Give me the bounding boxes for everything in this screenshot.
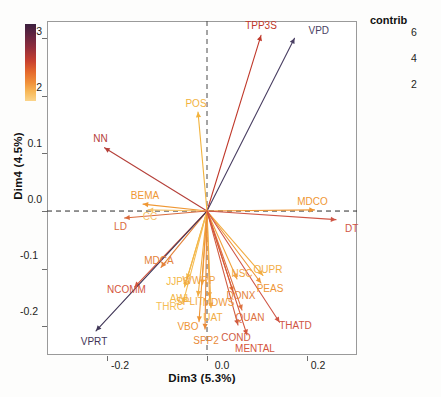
arrowhead-pos (196, 112, 201, 117)
arrow-label-cond: COND (221, 333, 250, 343)
arrow-mdco (207, 210, 315, 211)
arrow-nn (105, 148, 208, 211)
arrow-label-donx: DONX (227, 291, 256, 301)
arrow-label-nn: NN (93, 134, 107, 144)
tick-mark (207, 356, 208, 361)
arrow-tpp3s (207, 35, 261, 211)
arrow-label-thatd: THATD (279, 321, 312, 331)
arrow-label-tpp3s: TPP3S (245, 21, 277, 31)
arrow-label-ld: LD (114, 222, 127, 232)
tick-mark (307, 356, 308, 361)
arrow-label-mental: MENTAL (235, 344, 275, 354)
legend-title: contrib (370, 14, 440, 26)
arrow-label-peas: PEAS (257, 284, 284, 294)
pca-biplot-figure: 0.3 0.2 0.1 0.0 -0.1 -0.2 -0.2 0.0 0.2 D… (0, 0, 441, 397)
tick-mark (42, 326, 47, 327)
arrow-label-oupr: OUPR (254, 265, 283, 275)
legend: contrib (370, 14, 440, 31)
arrowhead-mdco (309, 207, 314, 212)
arrow-label-vpd: VPD (309, 26, 330, 36)
arrow-label-mdca: MDCA (144, 256, 173, 266)
legend-colorbar (25, 24, 36, 101)
arrow-label-mdco: MDCO (297, 197, 328, 207)
arrow-label-bema: BEMA (131, 191, 159, 201)
arrow-dt (207, 211, 336, 220)
arrow-label-ncomm: NCOMM (107, 285, 146, 295)
xtick-0: -0.2 (100, 359, 140, 371)
arrow-label-quan: QUAN (236, 313, 265, 323)
xtick-1: 0.0 (202, 359, 242, 371)
arrow-label-pos: POS (185, 99, 206, 109)
arrow-label-dt: DT (345, 224, 358, 234)
arrow-label-wwrp: WWRP (183, 276, 216, 286)
arrow-label-uat: UAT (203, 313, 222, 323)
legend-tick-6: 6 (411, 26, 417, 38)
arrow-label-nsc: NSC (231, 269, 252, 279)
ytick-4: -0.1 (4, 249, 38, 261)
xtick-2: 0.2 (298, 359, 338, 371)
arrow-label-vbo: VBO (177, 322, 198, 332)
arrow-vpd (207, 38, 295, 211)
tick-mark (42, 38, 47, 39)
arrow-ld (125, 211, 208, 218)
tick-mark (42, 153, 47, 154)
arrow-label-split: SPLIT (176, 297, 204, 307)
arrowhead-ld (125, 215, 130, 220)
arrow-pos (198, 112, 207, 211)
legend-tick-2: 2 (411, 78, 417, 90)
tick-mark (107, 356, 108, 361)
arrow-vprt (96, 211, 207, 331)
arrow-label-spp2: SPP2 (193, 336, 219, 346)
ytick-5: -0.2 (4, 305, 38, 317)
arrowhead-dt (331, 217, 336, 222)
x-axis-title: Dim3 (5.3%) (0, 372, 404, 384)
y-axis-title: Dim4 (4.5%) (12, 86, 24, 246)
tick-mark (42, 211, 47, 212)
arrow-label-cc: CC (143, 212, 157, 222)
tick-mark (42, 269, 47, 270)
legend-tick-4: 4 (411, 52, 417, 64)
arrow-label-vprt: VPRT (81, 337, 108, 347)
tick-mark (42, 96, 47, 97)
